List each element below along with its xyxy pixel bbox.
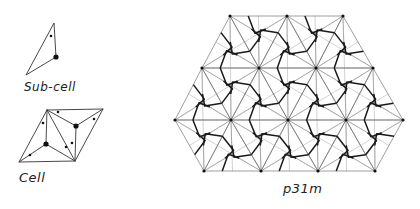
subcell-diagram	[26, 23, 59, 75]
motif-dot	[29, 154, 32, 157]
subcell-label: Sub-cell	[24, 80, 76, 94]
rotation-center-dot	[401, 118, 404, 121]
rotation-center-dot	[259, 169, 262, 172]
rotation-center-dot	[286, 118, 289, 121]
rotation-center-dot	[373, 169, 376, 172]
rotation-center-dot	[53, 54, 58, 59]
rotation-center-dot	[341, 14, 344, 17]
rotation-center-dot	[229, 118, 232, 121]
group-label: p31m	[283, 181, 322, 196]
motif-stroke	[260, 134, 279, 146]
line	[76, 109, 103, 126]
rotation-center-dot	[43, 141, 48, 146]
rotation-center-dot	[371, 66, 374, 69]
cell-label: Cell	[19, 170, 45, 185]
motif-stroke	[204, 134, 223, 146]
subcell-triangle	[26, 23, 56, 75]
motif-stroke	[345, 82, 364, 94]
line	[19, 144, 46, 162]
rotation-center-dot	[200, 66, 203, 69]
rotation-center-dot	[202, 169, 205, 172]
cell-diagram	[19, 109, 103, 162]
line	[46, 110, 47, 144]
rotation-center-dot	[344, 118, 347, 121]
motif-stroke	[318, 134, 338, 146]
rotation-center-dot	[285, 14, 288, 17]
line	[75, 126, 76, 161]
rotation-center-dot	[73, 123, 78, 128]
motif-dot	[42, 122, 45, 125]
wallpaper-diagram	[0, 0, 420, 209]
motif-dot	[93, 118, 96, 121]
rotation-center-dot	[316, 169, 319, 172]
pattern-motif-lines	[193, 16, 394, 171]
motif-dot	[71, 142, 74, 145]
motif-dot	[50, 35, 53, 38]
rotation-center-dot	[257, 66, 260, 69]
rotation-center-dot	[314, 66, 317, 69]
rotation-center-dot	[228, 14, 231, 17]
motif-stroke	[316, 30, 335, 42]
motif-dot	[57, 111, 60, 114]
rotation-center-dot	[173, 118, 176, 121]
motif-dot	[65, 146, 68, 149]
